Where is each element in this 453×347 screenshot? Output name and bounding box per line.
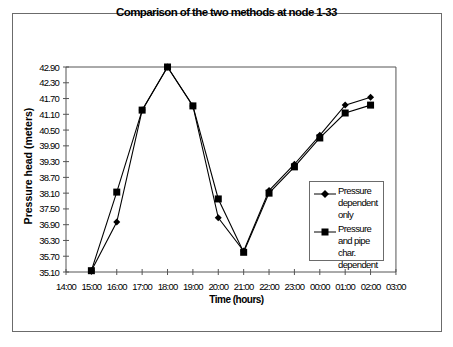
- x-tick-label: 15:00: [81, 281, 101, 292]
- square-marker: [139, 107, 146, 114]
- y-tick-label: 36.90: [39, 219, 59, 230]
- square-marker: [113, 189, 120, 196]
- square-marker: [367, 102, 374, 109]
- y-tick-label: 38.70: [39, 172, 59, 183]
- y-tick-label: 39.90: [39, 140, 59, 151]
- x-tick-label: 21:00: [234, 281, 254, 292]
- x-tick-label: 22:00: [259, 281, 279, 292]
- y-tick-label: 37.50: [39, 203, 59, 214]
- diamond-marker-icon: [314, 189, 336, 199]
- y-tick-label: 40.50: [39, 125, 59, 136]
- y-tick-label: 42.30: [39, 77, 59, 88]
- x-tick-label: 01:00: [335, 281, 355, 292]
- x-tick-label: 20:00: [208, 281, 228, 292]
- y-tick-label: 41.70: [39, 93, 59, 104]
- x-tick-label: 17:00: [132, 281, 152, 292]
- x-tick-label: 03:00: [386, 281, 406, 292]
- y-tick-label: 39.30: [39, 156, 59, 167]
- x-tick-label: 16:00: [107, 281, 127, 292]
- y-tick-label: 41.10: [39, 109, 59, 120]
- square-marker: [342, 109, 349, 116]
- square-marker: [189, 102, 196, 109]
- legend: Pressure dependent only Pressure and pip…: [309, 181, 384, 261]
- x-tick-label: 14:00: [56, 281, 76, 292]
- x-tick-label: 23:00: [285, 281, 305, 292]
- square-marker: [164, 64, 171, 71]
- square-marker: [316, 134, 323, 141]
- square-marker: [240, 249, 247, 256]
- y-tick-label: 38.10: [39, 188, 59, 199]
- diamond-marker: [367, 94, 374, 101]
- y-tick-label: 35.70: [39, 251, 59, 262]
- plot-area: 35.1035.7036.3036.9037.5038.1038.7039.30…: [0, 0, 453, 347]
- x-tick-label: 19:00: [183, 281, 203, 292]
- x-tick-label: 02:00: [361, 281, 381, 292]
- legend-item-pressure-pipe: Pressure and pipe char. dependent: [338, 223, 386, 271]
- y-tick-label: 35.10: [39, 267, 59, 278]
- y-tick-label: 42.90: [39, 62, 59, 73]
- square-marker: [215, 195, 222, 202]
- square-marker: [88, 267, 95, 274]
- diamond-marker: [113, 219, 120, 226]
- x-tick-label: 18:00: [158, 281, 178, 292]
- y-tick-label: 36.30: [39, 235, 59, 246]
- square-marker: [291, 163, 298, 170]
- x-tick-label: 00:00: [310, 281, 330, 292]
- square-marker-icon: [314, 227, 336, 237]
- square-marker: [266, 190, 273, 197]
- legend-item-pressure-only: Pressure dependent only: [338, 185, 386, 221]
